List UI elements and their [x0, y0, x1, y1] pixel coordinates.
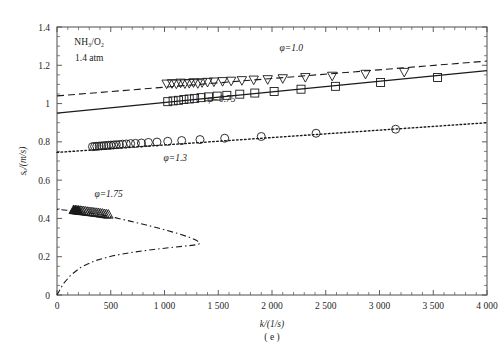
series-label-5: φ=1.75	[94, 189, 123, 199]
x-tick-label: 500	[104, 301, 119, 311]
x-tick-label: 0	[55, 301, 60, 311]
plot-frame	[57, 27, 487, 295]
series-2	[57, 123, 487, 153]
panel-label: ( e )	[264, 332, 279, 343]
data-point-circle	[312, 129, 320, 137]
data-point-triangle-down	[263, 76, 272, 85]
x-tick-label: 2 500	[315, 301, 337, 311]
series-3	[57, 205, 200, 295]
series-label-3: φ=0.75	[207, 94, 236, 104]
data-point-triangle-down	[278, 75, 287, 84]
data-point-triangle-down	[172, 80, 181, 89]
x-tick-label: 1 000	[154, 301, 176, 311]
y-tick-label: 1.2	[38, 61, 50, 71]
y-tick-label: 0.6	[38, 176, 50, 186]
series-label-4: φ=1.3	[163, 153, 187, 163]
chart-plot: 05001 0001 5002 0002 5003 0003 5004 0000…	[0, 0, 502, 349]
condition-label-0: NH₃/O₂	[74, 37, 104, 47]
x-tick-label: 3 500	[423, 301, 445, 311]
data-point-circle	[257, 133, 265, 141]
y-tick-label: 1.4	[38, 23, 50, 33]
data-point-triangle-down	[301, 74, 310, 83]
series-line-3	[57, 209, 200, 295]
series-0	[57, 61, 487, 96]
y-tick-label: 0.2	[38, 252, 50, 262]
data-point-triangle-down	[361, 70, 370, 79]
data-point-square	[236, 90, 244, 98]
data-point-triangle-down	[249, 76, 258, 85]
figure-container: 05001 0001 5002 0002 5003 0003 5004 0000…	[0, 0, 502, 349]
y-tick-label: 1	[45, 99, 50, 109]
series-label-2: φ=1.0	[280, 43, 304, 53]
y-tick-label: 0.4	[38, 214, 50, 224]
x-tick-label: 1 500	[208, 301, 230, 311]
series-line-0	[57, 61, 487, 96]
data-point-triangle-down	[400, 68, 409, 77]
x-tick-label: 4 000	[476, 301, 498, 311]
x-tick-label: 2 000	[261, 301, 283, 311]
data-point-square	[185, 95, 193, 103]
data-point-square	[377, 79, 385, 87]
x-axis-title: k/(1/s)	[260, 319, 284, 330]
data-point-triangle-down	[209, 78, 218, 87]
x-tick-label: 3 000	[369, 301, 391, 311]
data-point-circle	[164, 137, 172, 145]
y-tick-label: 0.8	[38, 137, 50, 147]
y-tick-label: 0	[45, 291, 50, 301]
y-axis-title: sᵤ/(m/s)	[18, 147, 29, 176]
condition-label-1: 1.4 atm	[75, 53, 104, 63]
